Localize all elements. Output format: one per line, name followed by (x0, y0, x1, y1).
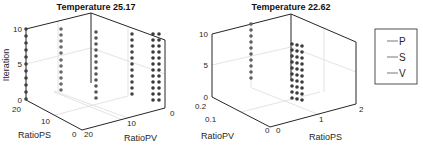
svg-text:0.2: 0.2 (195, 102, 207, 111)
svg-text:V: V (399, 68, 406, 79)
svg-text:0: 0 (276, 126, 281, 135)
plot2-axes-frame (212, 14, 356, 127)
plot1-gridlines (26, 21, 165, 120)
svg-text:20: 20 (84, 130, 93, 139)
svg-text:5: 5 (204, 61, 209, 70)
plot1-title: Temperature 25.17 (57, 2, 136, 12)
plot2-x-ticks: 0 1 2 (276, 105, 364, 135)
figure-canvas: Temperature 25.17 (0, 0, 423, 146)
svg-text:0: 0 (265, 126, 270, 135)
plot2-title: Temperature 22.62 (252, 2, 331, 12)
plot-temperature-25-17: Temperature 25.17 (1, 2, 175, 143)
svg-text:10: 10 (127, 119, 136, 128)
svg-text:0: 0 (18, 96, 23, 105)
plot1-zlabel: Iteration (1, 49, 11, 82)
svg-text:0: 0 (72, 130, 77, 139)
svg-text:0.1: 0.1 (205, 115, 217, 124)
plot1-ylabel: RatioPS (18, 130, 51, 140)
svg-text:10: 10 (41, 117, 50, 126)
svg-text:1: 1 (319, 115, 324, 124)
plot2-ylabel: RatioPV (201, 131, 234, 141)
svg-text:10: 10 (13, 25, 22, 34)
plot-temperature-22-62: Temperature 22.62 (195, 2, 364, 142)
svg-text:S: S (399, 52, 406, 63)
legend: P S V (375, 29, 417, 84)
plot2-gridlines (212, 24, 356, 115)
svg-text:P: P (399, 36, 406, 47)
svg-text:20: 20 (12, 105, 21, 114)
svg-text:10: 10 (199, 30, 208, 39)
svg-text:0: 0 (204, 93, 209, 102)
plot1-xlabel: RatioPV (124, 133, 157, 143)
plot1-z-ticks: 10 5 0 (13, 25, 22, 105)
plot1-markers (24, 27, 161, 102)
plot2-z-ticks: 10 5 0 (199, 30, 208, 102)
svg-text:0: 0 (170, 109, 175, 118)
svg-text:2: 2 (359, 105, 364, 114)
plot2-xlabel: RatioPS (309, 132, 342, 142)
svg-text:5: 5 (18, 60, 23, 69)
